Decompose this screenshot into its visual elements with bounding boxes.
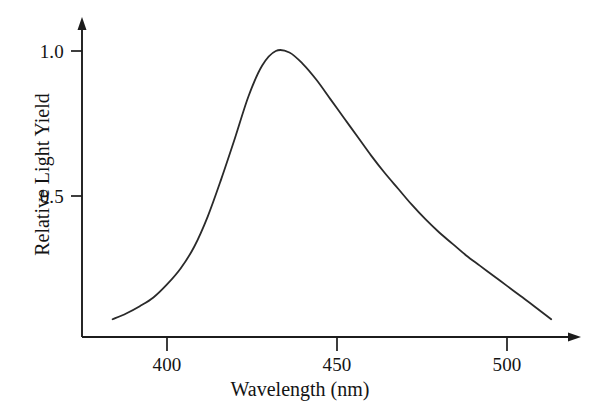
x-tick-label-400: 400 — [127, 354, 207, 376]
x-tick-label-500: 500 — [467, 354, 547, 376]
y-axis-arrow-icon — [78, 17, 87, 30]
x-axis-title: Wavelength (nm) — [150, 378, 450, 401]
emission-spectrum-curve — [113, 50, 552, 319]
x-tick-label-450: 450 — [297, 354, 377, 376]
y-axis-title: Relative Light Yield — [31, 55, 54, 295]
x-axis-arrow-icon — [568, 333, 581, 342]
chart-figure: 1.0 0.5 400 450 500 Wavelength (nm) Rela… — [0, 0, 595, 418]
